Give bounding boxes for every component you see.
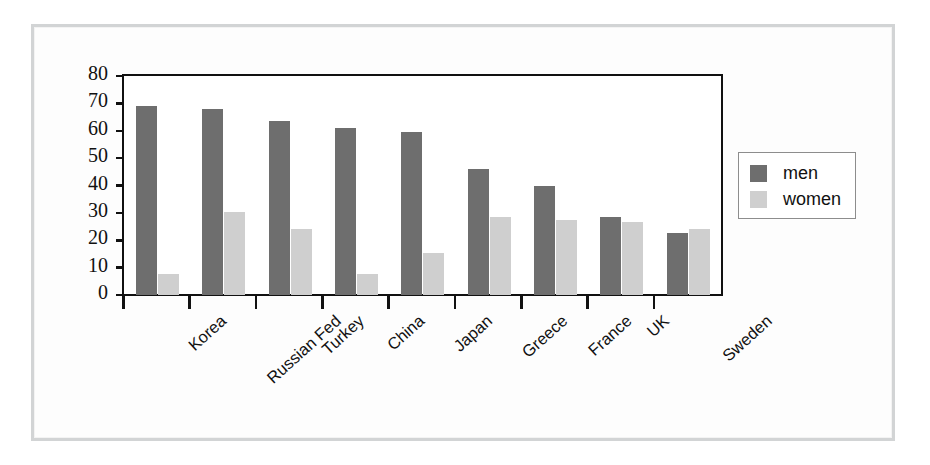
bar-group [588,76,654,295]
bar-men[interactable] [136,106,157,295]
bar-women[interactable] [224,212,245,295]
y-axis-tick-label: 70 [88,90,108,110]
bar-group [257,76,323,295]
bars-layer [124,76,721,295]
y-axis-tick-label: 40 [88,173,108,193]
scanned-page: 01020304050607080 KoreaRussian FedTurkey… [0,0,930,465]
legend-label-men: men [783,164,818,182]
bar-men[interactable] [600,217,621,295]
x-axis-label: UK [644,312,672,340]
bar-chart-figure: 01020304050607080 KoreaRussian FedTurkey… [0,0,930,465]
bar-women[interactable] [556,220,577,295]
bar-men[interactable] [534,186,555,296]
legend-entry-men[interactable]: men [750,164,818,182]
x-axis-label: Greece [519,312,570,360]
legend: men women [738,152,856,219]
y-axis-tick-label: 10 [88,255,108,275]
bar-men[interactable] [202,109,223,295]
x-axis-label: Korea [185,312,229,354]
y-axis: 01020304050607080 [60,60,130,310]
bar-women[interactable] [423,253,444,295]
legend-entry-women[interactable]: women [750,190,841,208]
bar-women[interactable] [490,217,511,295]
bar-women[interactable] [357,274,378,295]
bar-men[interactable] [269,121,290,295]
x-axis-labels: KoreaRussian FedTurkeyChinaJapanGreeceFr… [0,296,760,406]
bar-group [124,76,190,295]
y-axis-tick-label: 60 [88,118,108,138]
bar-group [655,76,721,295]
y-axis-tick-label: 30 [88,200,108,220]
bar-group [190,76,256,295]
y-axis-tick-label: 50 [88,145,108,165]
y-axis-tick-label: 20 [88,227,108,247]
bar-group [456,76,522,295]
legend-swatch-men [750,165,767,182]
bar-women[interactable] [622,222,643,295]
bar-women[interactable] [689,229,710,295]
x-axis-label: France [585,312,634,359]
x-axis-label: Japan [451,312,495,354]
bar-men[interactable] [401,132,422,295]
y-axis-tick-label: 80 [88,63,108,83]
x-axis-label: Sweden [720,312,775,364]
bar-men[interactable] [468,169,489,295]
bar-men[interactable] [667,233,688,295]
bar-women[interactable] [158,274,179,295]
bar-women[interactable] [291,229,312,295]
legend-label-women: women [783,190,841,208]
x-axis-label: China [384,312,427,353]
bar-group [323,76,389,295]
bar-group [522,76,588,295]
bar-group [389,76,455,295]
legend-swatch-women [750,191,767,208]
bar-men[interactable] [335,128,356,295]
